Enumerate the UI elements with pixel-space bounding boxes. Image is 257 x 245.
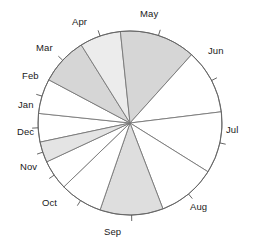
month-label-feb: Feb	[22, 71, 39, 81]
month-label-jul: Jul	[226, 125, 238, 135]
month-label-mar: Mar	[36, 43, 53, 53]
tick-mark-apr	[98, 30, 100, 36]
month-label-may: May	[140, 9, 158, 19]
tick-mark-aug	[189, 194, 193, 199]
month-label-dec: Dec	[17, 127, 34, 137]
tick-mark-feb	[36, 94, 42, 96]
pie-slices-group	[38, 31, 222, 215]
tick-mark-dec	[37, 152, 43, 154]
tick-mark-mar	[58, 56, 62, 60]
tick-mark-jun	[212, 78, 217, 81]
month-label-aug: Aug	[190, 202, 207, 212]
month-label-jun: Jun	[208, 46, 224, 56]
tick-mark-jul	[220, 143, 226, 144]
pie-chart-canvas	[0, 0, 257, 245]
tick-mark-may	[158, 30, 160, 36]
tick-mark-nov	[49, 175, 54, 178]
pie-chart-figure: JanFebMarAprMayJunJulAugSepOctNovDec	[0, 0, 257, 245]
month-label-nov: Nov	[20, 162, 37, 172]
month-label-sep: Sep	[104, 227, 121, 237]
tick-mark-oct	[77, 201, 80, 206]
month-label-jan: Jan	[18, 100, 34, 110]
month-label-oct: Oct	[42, 198, 57, 208]
month-label-apr: Apr	[72, 17, 87, 27]
